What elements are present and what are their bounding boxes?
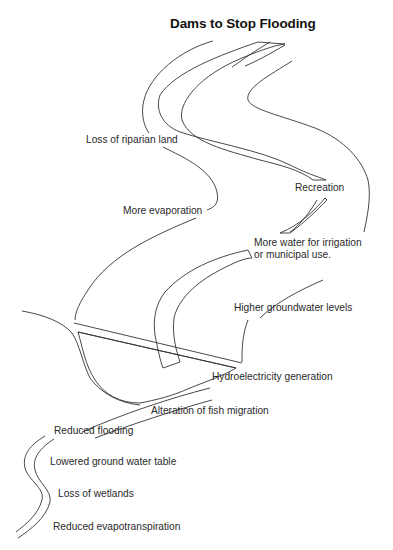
diagram-title: Dams to Stop Flooding — [170, 16, 316, 31]
dam-diagram: Dams to Stop Flooding Loss of riparian l… — [0, 0, 393, 550]
label-recreation: Recreation — [295, 182, 344, 194]
reservoir-water-middle — [280, 198, 327, 233]
reservoir-water-upper — [158, 42, 326, 180]
right-bank-dam — [242, 320, 248, 362]
river-bottom-right — [18, 439, 54, 538]
label-more-evaporation: More evaporation — [123, 205, 202, 217]
right-bank-upper — [248, 61, 370, 232]
label-higher-groundwater: Higher groundwater levels — [234, 302, 352, 314]
label-lowered-water-table: Lowered ground water table — [50, 456, 176, 468]
label-loss-riparian-land: Loss of riparian land — [86, 134, 178, 146]
label-irrigation-line1: More water for irrigation — [254, 237, 362, 249]
label-hydroelectricity: Hydroelectricity generation — [212, 371, 333, 383]
left-bank-middle — [163, 147, 218, 210]
label-fish-migration: Alteration of fish migration — [151, 405, 269, 417]
left-bank-upper — [143, 41, 213, 133]
dam-wall — [74, 323, 242, 363]
label-reduced-flooding: Reduced flooding — [54, 425, 133, 437]
label-reduced-evapotranspiration: Reduced evapotranspiration — [53, 521, 180, 533]
label-loss-wetlands: Loss of wetlands — [58, 488, 134, 500]
left-bank-lower — [75, 218, 196, 320]
label-irrigation-line2: or municipal use. — [254, 249, 331, 261]
